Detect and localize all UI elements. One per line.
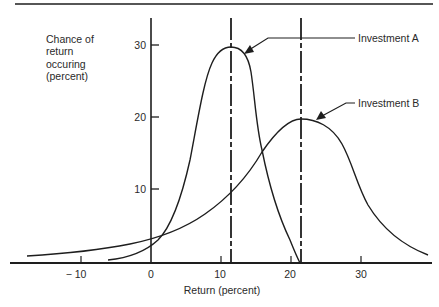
- annotation-investment-a: Investment A: [244, 32, 419, 54]
- y-axis-label-line-1: Chance of: [46, 33, 94, 45]
- annotation-investment-b: Investment B: [316, 97, 419, 120]
- y-axis-label-line-3: occuring: [46, 58, 94, 70]
- y-axis-label-line-2: return: [46, 45, 94, 57]
- curve-investment-b: [27, 119, 428, 256]
- y-tick-label-20: 20: [134, 111, 146, 123]
- y-axis-label: Chance of return occuring (percent): [46, 33, 94, 82]
- arrowhead-b-icon: [316, 111, 326, 120]
- x-tick-label-minus-10: − 10: [66, 268, 87, 280]
- y-tick-label-30: 30: [134, 39, 146, 51]
- y-tick-label-10: 10: [134, 183, 146, 195]
- x-tick-label-10: 10: [214, 268, 226, 280]
- y-ticks: [151, 45, 159, 189]
- y-axis-label-line-4: (percent): [46, 70, 94, 82]
- x-axis-label: Return (percent): [184, 284, 260, 296]
- x-tick-label-30: 30: [355, 268, 367, 280]
- x-tick-label-20: 20: [284, 268, 296, 280]
- arrowhead-a-icon: [244, 45, 254, 54]
- annotation-label-a: Investment A: [358, 32, 419, 44]
- x-tick-label-0: 0: [148, 268, 154, 280]
- curve-investment-a: [108, 47, 300, 263]
- annotation-label-b: Investment B: [358, 97, 419, 109]
